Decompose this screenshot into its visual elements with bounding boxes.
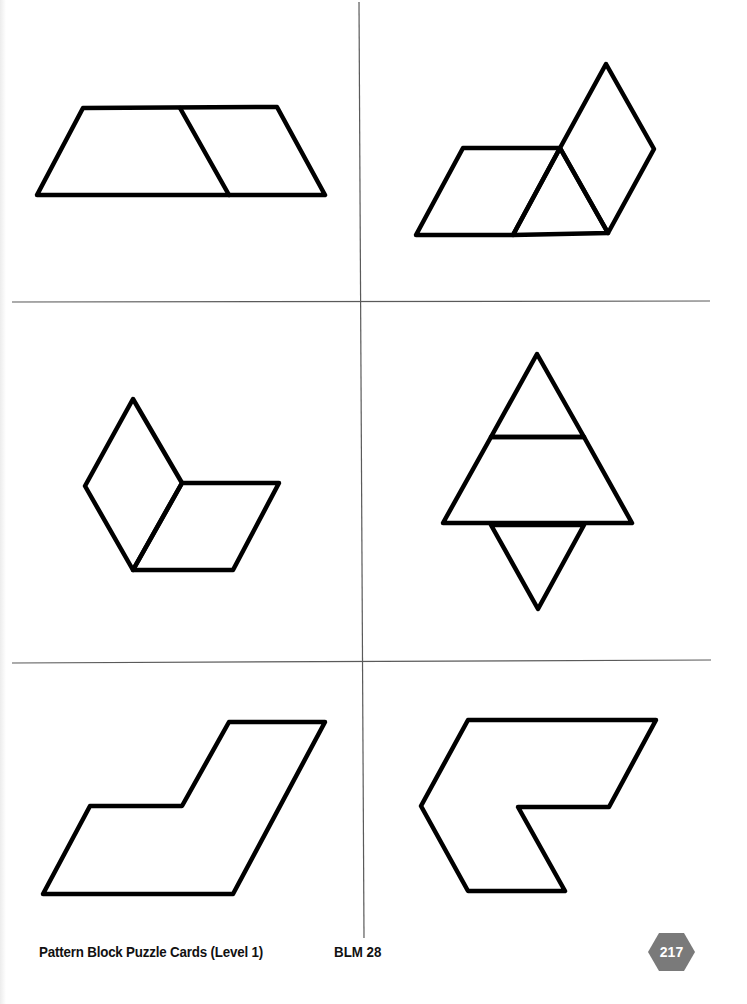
cut-lines: [12, 2, 711, 938]
page-number: 217: [648, 933, 695, 971]
card-middle-left-shape: [85, 399, 279, 570]
card-top-right-shape: [416, 64, 654, 235]
card-middle-right-shape: [443, 354, 632, 609]
horizontal-cut-line-bottom: [12, 660, 711, 663]
horizontal-cut-line-top: [12, 301, 710, 302]
card-top-left-shape: [37, 107, 325, 195]
card-bottom-left-shape: [43, 722, 325, 894]
puzzle-card-sheet: [0, 0, 747, 1004]
footer-title: Pattern Block Puzzle Cards (Level 1): [39, 944, 263, 960]
page-number-badge: 217: [648, 933, 695, 971]
footer-blm-code: BLM 28: [334, 944, 381, 960]
vertical-cut-line: [359, 2, 364, 938]
card-bottom-right-shape: [421, 720, 656, 891]
